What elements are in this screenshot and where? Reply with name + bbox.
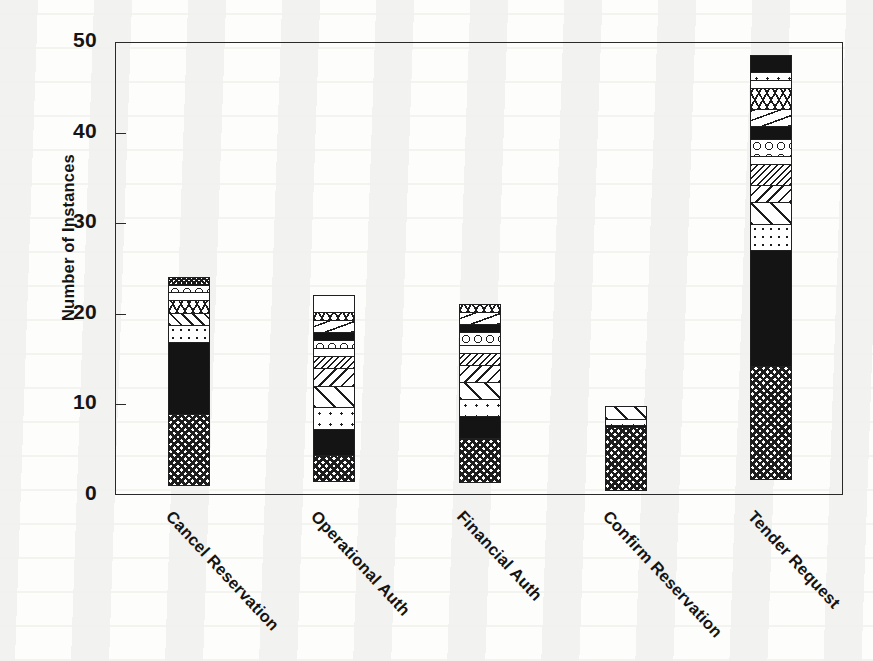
bar-segment	[459, 438, 501, 483]
bar-segment	[750, 250, 792, 368]
y-tick-label: 0	[0, 481, 97, 505]
bar-stack	[168, 277, 210, 494]
bar-stack	[459, 304, 501, 494]
bar-segment	[750, 224, 792, 251]
x-tick-label: Operational Auth	[307, 507, 414, 620]
bar-segment	[459, 399, 501, 417]
y-axis-title: Number of Instances	[59, 108, 78, 368]
bar-segment	[750, 366, 792, 479]
stacked-bar-chart: Number of Instances 01020304050 Cancel R…	[0, 0, 873, 661]
x-tick-label: Confirm Reservation	[599, 507, 726, 641]
bar-segment	[750, 88, 792, 111]
y-tick-label: 40	[0, 119, 97, 143]
bar-stack	[313, 295, 355, 494]
x-tick-label: Cancel Reservation	[162, 507, 283, 635]
bar-segment	[313, 407, 355, 430]
bar-segment	[168, 342, 210, 414]
bar-segment	[605, 427, 647, 490]
bar-segment	[459, 416, 501, 439]
bar-segment	[750, 55, 792, 73]
bar-segment	[750, 202, 792, 225]
bar-stack	[750, 55, 792, 494]
y-tick-label: 50	[0, 28, 97, 52]
bar-segment	[168, 325, 210, 343]
y-tick-label: 20	[0, 300, 97, 324]
x-tick-label: Tender Request	[744, 507, 844, 612]
x-tick-label: Financial Auth	[453, 507, 546, 605]
bar-segment	[313, 455, 355, 482]
bar-segment	[459, 382, 501, 400]
bar-segment	[750, 109, 792, 127]
plot-area	[115, 42, 843, 495]
bar-segment	[750, 185, 792, 203]
bar-segment	[313, 368, 355, 386]
bar-segment	[313, 386, 355, 409]
bar-segment	[313, 429, 355, 456]
bar-segment	[750, 139, 792, 157]
bar-segment	[459, 365, 501, 383]
bar-stack	[605, 406, 647, 494]
y-tick-label: 30	[0, 209, 97, 233]
bar-segment	[168, 414, 210, 486]
bar-segment	[313, 295, 355, 313]
bar-segment	[750, 164, 792, 187]
y-tick-label: 10	[0, 390, 97, 414]
